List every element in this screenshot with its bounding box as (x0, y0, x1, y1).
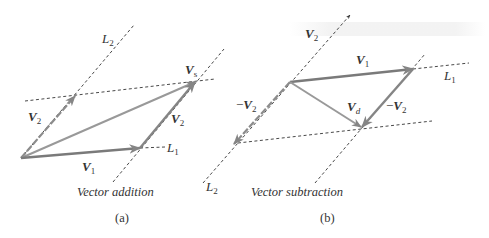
label-L2-a: L2 (102, 32, 114, 48)
label-Vs: Vs (185, 63, 197, 79)
vector-diagram (0, 0, 489, 238)
panel-a-vector-addition (21, 25, 224, 182)
label-V2-left-a: V2 (28, 110, 41, 126)
label-neg-V2-left: −V2 (236, 98, 257, 114)
label-V1-a: V1 (82, 160, 95, 176)
dashed-parallel-V1-b (238, 121, 432, 143)
label-neg-V2-right: −V2 (386, 99, 407, 115)
label-L1-a: L1 (167, 141, 179, 157)
label-Vd: Vd (347, 100, 360, 116)
vector-V1-b (290, 69, 413, 82)
panel-label-b: (b) (320, 211, 335, 226)
label-L1-b: L1 (444, 69, 456, 85)
line-L2-a (21, 25, 134, 158)
label-V2-top-b: V2 (305, 27, 318, 43)
panel-label-a: (a) (115, 211, 129, 226)
dashed-parallel-V1-a (25, 79, 215, 101)
vector-V2-right-a (140, 82, 195, 148)
caption-vector-addition: Vector addition (77, 185, 154, 200)
line-L2-b (203, 15, 350, 183)
label-L2-b: L2 (206, 180, 218, 196)
vector-V2-left-a (21, 96, 75, 158)
line-L1-a (140, 147, 165, 148)
label-V1-b: V1 (356, 53, 369, 69)
label-V2-right-a: V2 (171, 112, 184, 128)
caption-vector-subtraction: Vector subtraction (251, 185, 343, 200)
line-L1-b (413, 63, 469, 69)
